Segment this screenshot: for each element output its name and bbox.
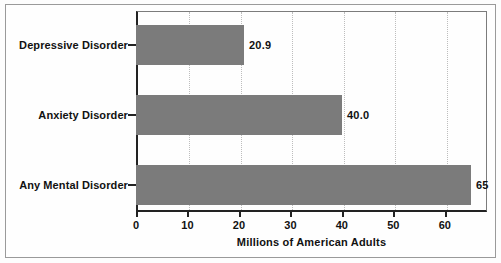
bar-value-label: 20.9 — [249, 39, 271, 51]
x-tick-mark — [393, 212, 395, 217]
x-tick-mark — [445, 212, 447, 217]
bar-row: 40.0 — [136, 95, 487, 135]
bar-value-label: 65 — [476, 179, 489, 191]
y-tick-mark — [128, 114, 136, 116]
y-axis-ticks — [0, 11, 140, 212]
x-tick-label: 30 — [284, 219, 296, 231]
x-tick-mark — [342, 212, 344, 217]
bar-value-label: 40.0 — [347, 109, 369, 121]
x-tick-label: 50 — [387, 219, 399, 231]
x-tick-mark — [187, 212, 189, 217]
x-tick-label: 20 — [233, 219, 245, 231]
bar-anxiety-disorder[interactable] — [136, 95, 342, 135]
bar-row: 20.9 — [136, 25, 487, 65]
x-tick-mark — [290, 212, 292, 217]
y-tick-mark — [128, 44, 136, 46]
x-tick-mark — [239, 212, 241, 217]
bars-layer: 20.9 40.0 65 — [136, 11, 487, 212]
bar-depressive-disorder[interactable] — [136, 25, 244, 65]
y-tick-mark — [128, 184, 136, 186]
bar-any-mental-disorder[interactable] — [136, 165, 471, 205]
x-tick-mark — [136, 212, 138, 217]
x-tick-label: 10 — [181, 219, 193, 231]
bar-row: 65 — [136, 165, 487, 205]
x-tick-label: 0 — [133, 219, 139, 231]
x-axis-title: Millions of American Adults — [136, 236, 487, 248]
x-tick-label: 60 — [439, 219, 451, 231]
x-tick-label: 40 — [336, 219, 348, 231]
chart-figure: 20.9 40.0 65 Depressive Disorder Anxiety… — [0, 0, 501, 263]
